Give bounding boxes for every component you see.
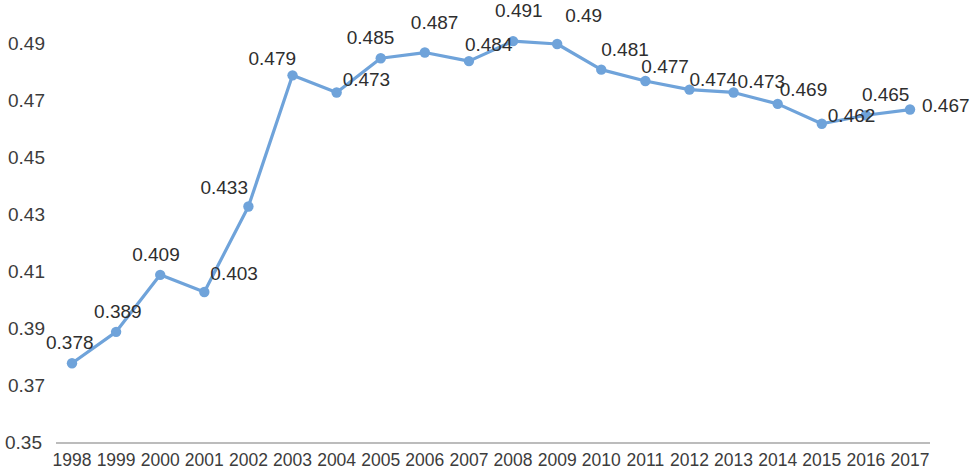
x-axis-tick-label: 2006: [405, 452, 444, 470]
data-point-label: 0.473: [343, 70, 391, 89]
x-axis-tick-label: 2002: [229, 452, 268, 470]
data-point-label: 0.467: [922, 96, 970, 115]
data-point-label: 0.389: [94, 302, 142, 321]
data-point-label: 0.469: [780, 80, 828, 99]
x-axis-tick-label: 2012: [670, 452, 709, 470]
data-point[interactable]: [640, 76, 650, 86]
data-point[interactable]: [772, 99, 782, 109]
x-axis-tick-label: 2010: [582, 452, 621, 470]
data-point[interactable]: [67, 358, 77, 368]
data-point[interactable]: [155, 270, 165, 280]
x-axis-tick-label: 2003: [273, 452, 312, 470]
data-point-label: 0.477: [641, 57, 689, 76]
data-point-label: 0.433: [200, 178, 248, 197]
data-point-label: 0.491: [495, 1, 543, 20]
y-axis-tick-label: 0.45: [8, 148, 45, 167]
x-axis-tick-label: 2017: [891, 452, 930, 470]
data-point-label: 0.487: [411, 13, 459, 32]
data-point-label: 0.378: [46, 333, 94, 352]
data-point[interactable]: [817, 119, 827, 129]
y-axis-tick-label: 0.35: [5, 433, 42, 452]
y-axis-tick-label: 0.43: [8, 205, 45, 224]
data-point[interactable]: [287, 70, 297, 80]
data-point-label: 0.403: [210, 264, 258, 283]
x-axis-tick-label: 2008: [494, 452, 533, 470]
data-point-label: 0.485: [347, 28, 395, 47]
y-axis-tick-label: 0.47: [8, 91, 45, 110]
x-axis-tick-label: 2011: [627, 452, 665, 470]
data-point-label: 0.484: [465, 35, 513, 54]
x-axis-tick-label: 2009: [538, 452, 577, 470]
y-axis-tick-label: 0.41: [8, 262, 45, 281]
data-point-label: 0.49: [565, 6, 602, 25]
data-point-label: 0.462: [828, 106, 876, 125]
x-axis-tick-label: 2015: [802, 452, 841, 470]
data-point[interactable]: [464, 56, 474, 66]
x-axis-tick-label: 2001: [185, 452, 224, 470]
data-point[interactable]: [905, 104, 915, 114]
data-point[interactable]: [552, 39, 562, 49]
data-point-label: 0.473: [738, 72, 786, 91]
data-point[interactable]: [420, 47, 430, 57]
data-point[interactable]: [376, 53, 386, 63]
data-point[interactable]: [243, 201, 253, 211]
y-axis-tick-label: 0.37: [8, 376, 45, 395]
x-axis-tick-label: 2014: [758, 452, 797, 470]
data-point-label: 0.474: [689, 70, 737, 89]
data-point[interactable]: [111, 327, 121, 337]
x-axis-tick-label: 2016: [846, 452, 885, 470]
x-axis-tick-label: 2005: [361, 452, 400, 470]
data-point[interactable]: [596, 64, 606, 74]
x-axis-tick-label: 2007: [449, 452, 488, 470]
x-axis-tick-label: 2000: [141, 452, 180, 470]
x-axis-tick-label: 1998: [53, 452, 92, 470]
y-axis-tick-label: 0.39: [8, 319, 45, 338]
data-point[interactable]: [199, 287, 209, 297]
x-axis-tick-label: 2004: [317, 452, 356, 470]
y-axis-tick-label: 0.49: [8, 34, 45, 53]
data-point[interactable]: [331, 87, 341, 97]
x-axis-tick-label: 2013: [714, 452, 753, 470]
data-point-label: 0.479: [249, 49, 297, 68]
data-point-label: 0.465: [862, 85, 910, 104]
x-axis-tick-label: 1999: [97, 452, 136, 470]
data-point-label: 0.409: [132, 245, 180, 264]
